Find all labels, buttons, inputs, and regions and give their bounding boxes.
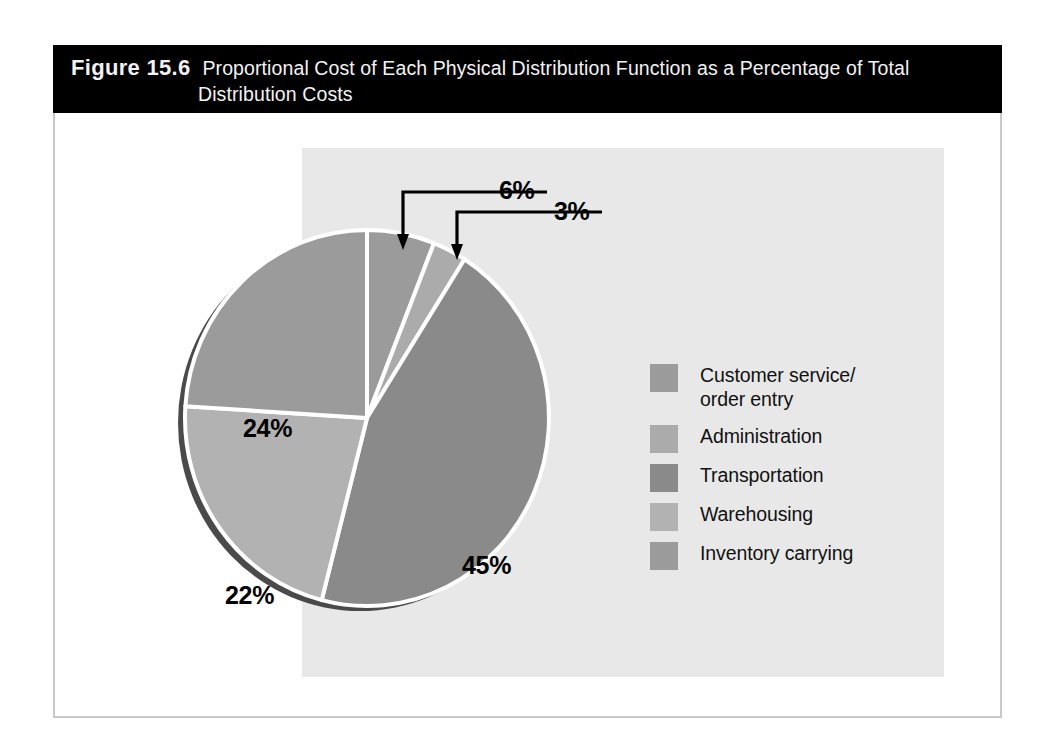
legend-swatch-icon (650, 464, 678, 492)
legend-swatch-icon (650, 542, 678, 570)
slice-value-transportation: 45% (462, 551, 511, 580)
figure-title-line1: Proportional Cost of Each Physical Distr… (202, 57, 909, 79)
legend-label-customer-service: Customer service/ order entry (700, 363, 855, 411)
legend-label-line2: order entry (700, 388, 793, 410)
legend-label-line1: Customer service/ (700, 364, 855, 386)
chart-legend: Customer service/ order entry Administra… (650, 363, 950, 580)
figure-number-label: Figure 15.6 (71, 55, 190, 80)
legend-swatch-icon (650, 364, 678, 392)
slice-value-inventory-carrying: 24% (243, 414, 292, 443)
legend-label-administration: Administration (700, 424, 822, 448)
pie-slice (185, 230, 367, 418)
legend-label-transportation: Transportation (700, 463, 824, 487)
callout-value-customer-service: 6% (499, 176, 535, 205)
slice-value-warehousing: 22% (225, 581, 274, 610)
callout-value-administration: 3% (554, 197, 590, 226)
legend-item-administration[interactable]: Administration (650, 424, 950, 454)
legend-item-customer-service[interactable]: Customer service/ order entry (650, 363, 950, 411)
legend-item-warehousing[interactable]: Warehousing (650, 502, 950, 532)
legend-item-inventory-carrying[interactable]: Inventory carrying (650, 541, 950, 571)
pie-slice-group (185, 230, 549, 606)
legend-swatch-icon (650, 425, 678, 453)
legend-label-inventory-carrying: Inventory carrying (700, 541, 853, 565)
legend-label-warehousing: Warehousing (700, 502, 813, 526)
legend-swatch-icon (650, 503, 678, 531)
legend-item-transportation[interactable]: Transportation (650, 463, 950, 493)
